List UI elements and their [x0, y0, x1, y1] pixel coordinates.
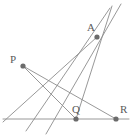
geometry-figure: APQR — [0, 0, 136, 139]
point-label-r: R — [120, 104, 127, 115]
line-through-A-to-lower-left — [26, 8, 110, 131]
point-dot-a[interactable] — [94, 34, 99, 39]
point-label-q: Q — [72, 104, 80, 115]
line-A-to-baseline-left-end — [3, 37, 97, 122]
line-P-to-Q — [23, 66, 76, 119]
geometry-canvas — [0, 0, 136, 139]
point-dot-q[interactable] — [73, 116, 78, 121]
steep-line-through-A-to-bottom — [46, 4, 121, 134]
segments-group — [3, 4, 129, 134]
point-dot-p[interactable] — [20, 63, 25, 68]
point-label-a: A — [87, 22, 95, 33]
point-label-p: P — [10, 54, 16, 65]
point-dot-r[interactable] — [113, 116, 118, 121]
